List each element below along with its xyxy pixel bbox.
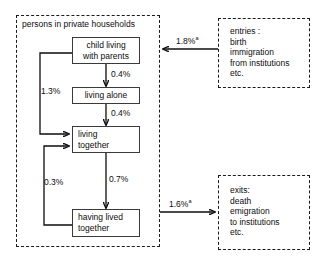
household-group-label: persons in private households: [22, 19, 135, 29]
node-child-living-with-parents: child living with parents: [72, 37, 140, 64]
node-alone-line-1: living alone: [85, 90, 128, 101]
entries-line-5: etc.: [230, 68, 290, 79]
entries-line-4: from institutions: [230, 58, 290, 69]
entries-text: entries : birth immigration from institu…: [230, 26, 290, 79]
exits-line-1: exits:: [230, 185, 280, 196]
edge-label-child-to-alone: 0.4%: [111, 69, 130, 79]
edge-label-alone-to-together: 0.4%: [111, 108, 130, 118]
edge-label-exits-out-value: 1.6%: [169, 199, 188, 209]
edge-label-exits-out: 1.6%a: [169, 199, 191, 209]
exits-line-2: death: [230, 196, 280, 207]
edge-label-entries-in-value: 1.8%: [176, 36, 195, 46]
diagram-canvas: persons in private households entries : …: [0, 0, 324, 263]
node-child-line-1: child living: [86, 40, 125, 51]
edge-label-child-to-together: 1.3%: [41, 86, 60, 96]
node-child-line-2: with parents: [83, 51, 129, 62]
edge-label-entries-in: 1.8%a: [176, 36, 198, 46]
entries-line-1: entries :: [230, 26, 290, 37]
exits-line-3: emigration: [230, 206, 280, 217]
edge-label-exits-out-note: a: [188, 198, 191, 204]
node-hlt-line-1: having lived: [78, 212, 123, 223]
edge-label-together-to-hlt-value: 0.7%: [109, 174, 128, 184]
edge-label-together-to-hlt: 0.7%: [109, 174, 128, 184]
node-living-alone: living alone: [72, 87, 140, 104]
entries-line-2: birth: [230, 37, 290, 48]
exits-line-4: to institutions: [230, 217, 280, 228]
node-together-line-2: together: [78, 140, 109, 151]
entries-line-3: immigration: [230, 47, 290, 58]
exits-line-5: etc.: [230, 227, 280, 238]
exits-text: exits: death emigration to institutions …: [230, 185, 280, 238]
node-living-together: living together: [72, 126, 140, 153]
node-together-line-1: living: [78, 129, 97, 140]
edge-label-child-to-together-value: 1.3%: [41, 86, 60, 96]
node-hlt-line-2: together: [78, 223, 109, 234]
edge-label-alone-to-together-value: 0.4%: [111, 108, 130, 118]
node-having-lived-together: having lived together: [72, 209, 140, 237]
edge-label-entries-in-note: a: [195, 35, 198, 41]
edge-label-hlt-to-together: 0.3%: [44, 177, 63, 187]
edge-label-child-to-alone-value: 0.4%: [111, 69, 130, 79]
edge-label-hlt-to-together-value: 0.3%: [44, 177, 63, 187]
